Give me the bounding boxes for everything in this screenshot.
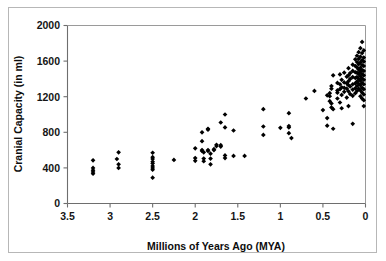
data-point	[193, 158, 198, 163]
data-point	[278, 126, 283, 131]
data-point	[350, 121, 355, 126]
data-point	[193, 146, 198, 151]
data-point	[339, 93, 344, 98]
y-tick-label: 1600	[37, 55, 61, 67]
data-point	[223, 156, 228, 161]
data-point	[261, 124, 266, 129]
data-point	[342, 89, 347, 94]
data-point	[208, 162, 213, 167]
data-point	[200, 130, 205, 135]
data-point	[208, 156, 213, 161]
data-point	[329, 86, 334, 91]
x-tick-label: 1.5	[230, 210, 245, 222]
data-point	[150, 150, 155, 155]
data-point	[91, 158, 96, 163]
data-point	[261, 107, 266, 112]
data-point	[331, 126, 336, 131]
data-points	[91, 40, 366, 180]
data-point	[287, 131, 292, 136]
data-point	[346, 66, 351, 71]
x-tick-label: 2.5	[145, 210, 160, 222]
y-tick-label: 1200	[37, 91, 61, 103]
data-point	[150, 175, 155, 180]
y-tick-label: 2000	[37, 19, 61, 31]
x-tick-label: 3.5	[60, 210, 75, 222]
y-axis-title: Cranial Capacity (in ml)	[12, 56, 24, 173]
data-point	[218, 120, 223, 125]
x-tick-label: 1	[277, 210, 283, 222]
data-point	[338, 72, 343, 77]
data-point	[289, 136, 294, 141]
axis-tick-labels: 04008001200160020003.532.521.510.50	[37, 19, 369, 221]
data-point	[335, 96, 340, 101]
data-point	[200, 139, 205, 144]
data-point	[346, 104, 351, 109]
data-point	[223, 125, 228, 130]
data-point	[115, 157, 120, 162]
data-point	[116, 166, 121, 171]
data-point	[231, 128, 236, 133]
data-point	[223, 112, 228, 117]
data-point	[212, 148, 217, 153]
data-point	[201, 159, 206, 164]
data-point	[172, 158, 177, 163]
scatter-plot: 04008001200160020003.532.521.510.50 Mill…	[0, 0, 386, 261]
data-point	[206, 127, 211, 132]
x-tick-label: 0	[363, 210, 369, 222]
data-point	[344, 95, 349, 100]
y-tick-label: 800	[42, 126, 60, 138]
scatter-plot-svg: 04008001200160020003.532.521.510.50 Mill…	[0, 0, 386, 261]
data-point	[231, 154, 236, 159]
data-point	[304, 96, 309, 101]
y-tick-label: 400	[42, 162, 60, 174]
x-tick-label: 3	[107, 210, 113, 222]
data-point	[321, 108, 326, 113]
data-point	[312, 89, 317, 94]
figure-container: 04008001200160020003.532.521.510.50 Mill…	[0, 0, 386, 261]
data-point	[242, 154, 247, 159]
data-point	[325, 123, 330, 128]
x-tick-label: 0.5	[316, 210, 331, 222]
data-point	[342, 70, 347, 75]
x-tick-label: 2	[192, 210, 198, 222]
data-point	[331, 73, 336, 78]
data-point	[287, 111, 292, 116]
data-point	[360, 40, 365, 45]
data-point	[338, 100, 343, 105]
data-point	[325, 116, 330, 121]
axis-ticks	[64, 26, 366, 208]
data-point	[261, 133, 266, 138]
y-tick-label: 0	[54, 197, 60, 209]
data-point	[339, 106, 344, 111]
data-point	[116, 150, 121, 155]
x-axis-title: Millions of Years Ago (MYA)	[147, 240, 285, 252]
plot-area-frame	[68, 26, 366, 204]
